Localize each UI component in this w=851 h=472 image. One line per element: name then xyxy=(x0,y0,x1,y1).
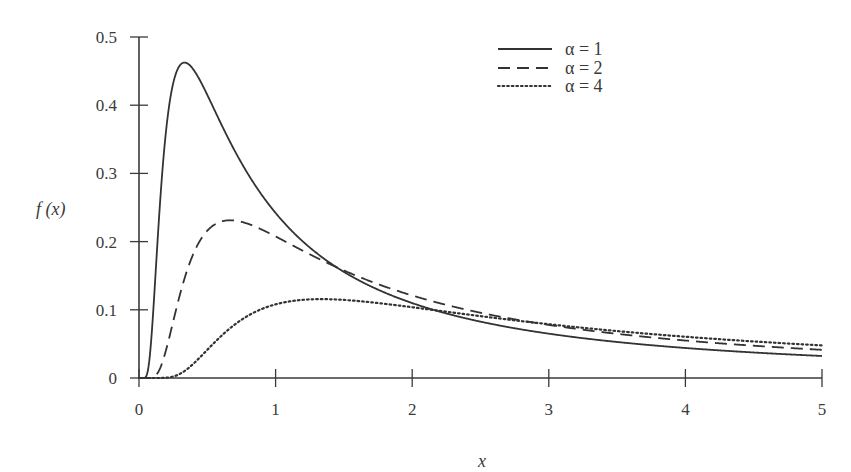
axes: 01234500.10.20.30.40.5 xyxy=(96,28,827,419)
series-line-alpha-2 xyxy=(139,220,822,378)
y-tick-label: 0.4 xyxy=(96,96,118,115)
series-line-alpha-4 xyxy=(139,299,822,378)
y-tick-label: 0.3 xyxy=(96,164,117,183)
curves xyxy=(139,63,822,378)
y-tick-label: 0.2 xyxy=(96,233,117,252)
y-tick-label: 0.1 xyxy=(96,301,117,320)
y-tick-label: 0 xyxy=(109,369,118,388)
legend-label-alpha-4: α = 4 xyxy=(565,76,603,96)
x-tick-label: 4 xyxy=(681,400,690,419)
x-tick-label: 5 xyxy=(818,400,827,419)
y-axis-label: f (x) xyxy=(36,199,65,220)
x-tick-label: 1 xyxy=(271,400,280,419)
series-line-alpha-1 xyxy=(139,63,822,378)
y-tick-label: 0.5 xyxy=(96,28,117,47)
x-tick-label: 3 xyxy=(545,400,554,419)
x-tick-label: 0 xyxy=(135,400,144,419)
legend-label-alpha-1: α = 1 xyxy=(565,39,603,59)
legend: α = 1α = 2α = 4 xyxy=(498,39,603,96)
x-tick-label: 2 xyxy=(408,400,417,419)
chart: 01234500.10.20.30.40.5 α = 1α = 2α = 4 f… xyxy=(0,0,851,472)
legend-label-alpha-2: α = 2 xyxy=(565,58,603,78)
x-axis-label: x xyxy=(477,451,486,471)
